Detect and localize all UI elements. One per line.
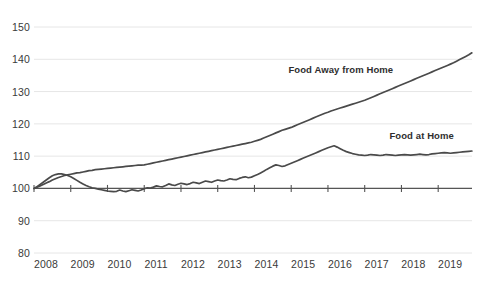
x-axis-tick-label-2016: 2016 [328,258,352,270]
x-axis-tick-label-2013: 2013 [218,258,242,270]
x-axis-labels: 2008200920102011201220132014201520162017… [0,258,479,278]
y-axis-labels: 8090100110120130140150 [0,0,30,290]
x-axis-tick-label-2018: 2018 [401,258,425,270]
chart-container: 8090100110120130140150 20082009201020112… [0,0,479,290]
x-axis-tick-label-2014: 2014 [254,258,278,270]
x-axis-tick-label-2008: 2008 [34,258,58,270]
series-annotation-food-at-home: Food at Home [389,130,454,141]
y-axis-tick-label-120: 120 [12,118,30,130]
series-line-food-away-from-home [34,53,472,189]
y-axis-tick-label-150: 150 [12,21,30,33]
x-axis-tick-label-2015: 2015 [291,258,315,270]
series-annotation-food-away-from-home: Food Away from Home [288,64,393,75]
y-axis-tick-label-100: 100 [12,182,30,194]
x-axis-tick-label-2011: 2011 [144,258,167,270]
y-axis-tick-label-140: 140 [12,53,30,65]
y-axis-tick-label-90: 90 [18,215,30,227]
line-chart-canvas [0,0,479,290]
x-axis-tick-label-2010: 2010 [107,258,131,270]
x-axis-tick-label-2017: 2017 [365,258,389,270]
y-axis-tick-label-130: 130 [12,86,30,98]
x-axis-tick-label-2012: 2012 [181,258,205,270]
x-axis-tick-label-2009: 2009 [71,258,95,270]
y-axis-tick-label-110: 110 [13,150,30,162]
x-axis-tick-label-2019: 2019 [438,258,462,270]
